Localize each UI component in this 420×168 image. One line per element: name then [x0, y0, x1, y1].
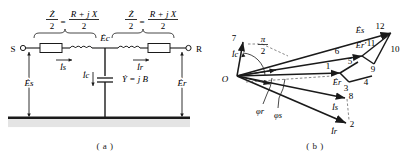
- vertex-number-1: 1: [326, 61, 331, 71]
- ground-bar: [8, 117, 190, 120]
- origin-label: O: [222, 74, 229, 84]
- phasor-ic: 7 İc: [231, 33, 243, 76]
- left-impedance-equals: =: [60, 17, 65, 27]
- vertex-number-12: 12: [376, 21, 385, 31]
- shunt-current-label: İc: [82, 70, 90, 80]
- left-impedance-formula: Ż 2 = R + j X 2: [34, 9, 99, 38]
- mid-node-voltage-label: Ėc: [99, 33, 110, 43]
- left-brace: [34, 29, 96, 38]
- right-impedance-formula: Ż 2 = R + j X 2: [112, 9, 178, 38]
- left-impedance-rhs-numerator: R + j X: [70, 9, 98, 19]
- terminal-receiving-label: R: [196, 44, 202, 54]
- angle-pi-denominator: 2: [261, 46, 266, 56]
- left-impedance-rhs-denominator: 2: [82, 21, 87, 31]
- panel-circuit-diagram: Ż 2 = R + j X 2 Ż 2 = R + j X 2: [0, 0, 210, 168]
- phasor-er-label: Ėr: [332, 77, 342, 87]
- sending-current-label: İs: [59, 62, 67, 72]
- ground-plane: [8, 117, 190, 128]
- phasor-ic-label: İc: [231, 49, 239, 59]
- left-inductor-symbol: [70, 46, 92, 48]
- vertex-number-2: 2: [350, 119, 355, 129]
- shunt-branch: İc Ẏ = j B: [82, 48, 149, 118]
- right-impedance-denominator: 2: [129, 21, 134, 31]
- figure-root: Ż 2 = R + j X 2 Ż 2 = R + j X 2: [0, 0, 420, 168]
- terminal-receiving: R: [186, 44, 202, 54]
- receiving-voltage-label: Ėr: [177, 78, 187, 88]
- vertex-number-7: 7: [232, 33, 237, 43]
- right-impedance-rhs-numerator: R + j X: [149, 9, 177, 19]
- ground-shading: [8, 119, 190, 127]
- terminal-sending-label: S: [10, 44, 15, 54]
- shunt-admittance-label: Ẏ = j B: [122, 74, 148, 84]
- receiving-current-arrow: İr: [133, 58, 149, 72]
- right-impedance-equals: =: [139, 17, 144, 27]
- dashed-is-to-ir: [347, 99, 349, 120]
- right-impedance-numerator: Ż: [128, 9, 134, 19]
- sending-current-arrow: İs: [56, 58, 72, 72]
- panel-phasor-diagram: O 7 İc π 2 1 Ėr: [210, 0, 420, 168]
- left-impedance-numerator: Ż: [49, 9, 55, 19]
- receiving-current-label: İr: [136, 62, 144, 72]
- phasor-is-label: İs: [331, 102, 339, 112]
- angle-pi-symbol: π: [261, 34, 266, 44]
- segment-3: 3: [340, 73, 349, 93]
- vertex-number-9: 9: [371, 64, 376, 74]
- segment-10: 10: [374, 34, 400, 64]
- vertex-number-8: 8: [349, 91, 354, 101]
- receiving-voltage-arrow: Ėr: [177, 52, 187, 117]
- left-resistor-symbol: [40, 44, 62, 53]
- vertex-number-10: 10: [391, 44, 401, 54]
- sending-voltage-arrow: Ės: [24, 52, 34, 117]
- segment-9: 9: [362, 56, 376, 74]
- angle-phi-s-label: φs: [274, 110, 283, 120]
- caption-a: ( a ): [0, 141, 210, 151]
- right-impedance-rhs-denominator: 2: [161, 21, 166, 31]
- sending-voltage-label: Ės: [24, 78, 34, 88]
- left-impedance-denominator: 2: [50, 21, 55, 31]
- phasor-es-label: Ės: [355, 25, 365, 35]
- segment-4: 4: [349, 76, 372, 87]
- phasor-ir-label: İr: [330, 126, 338, 136]
- vertex-number-4: 4: [364, 77, 369, 87]
- angle-phi-r-label: φr: [256, 106, 265, 116]
- right-resistor-symbol: [148, 44, 170, 53]
- caption-b: ( b ): [210, 141, 420, 151]
- right-inductor-symbol: [118, 46, 140, 48]
- origin-cluster-arrows: [237, 70, 276, 84]
- terminal-sending: S: [10, 44, 25, 54]
